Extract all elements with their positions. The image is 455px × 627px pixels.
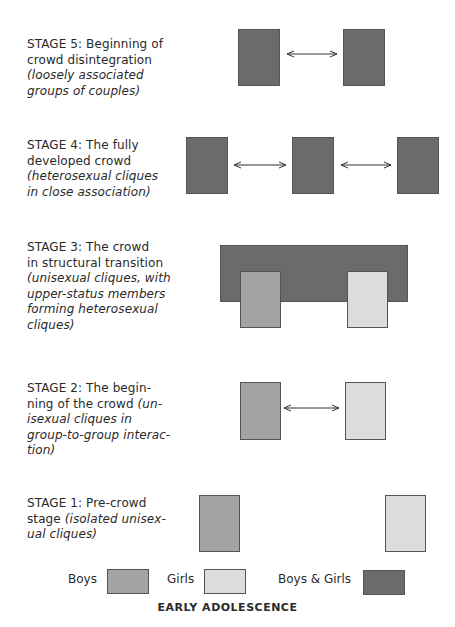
stage-1-desc-line1: ual cliques) <box>27 527 166 543</box>
stage-2-arrow-icon <box>282 403 342 413</box>
stage-1-label: STAGE 1: Pre-crowd stage (isolated unise… <box>27 496 166 543</box>
legend-girls-label: Girls <box>167 572 194 586</box>
stage-2-desc-line1: isexual cliques in <box>27 412 170 428</box>
stage-2-desc-line2: group-to-group interac- <box>27 428 170 444</box>
diagram-caption: EARLY ADOLESCENCE <box>0 601 455 614</box>
stage-4-mixed-clique-3 <box>397 137 439 194</box>
legend-boys-swatch <box>107 569 149 594</box>
stage-3-title-line1: STAGE 3: The crowd <box>27 240 171 256</box>
stage-3-title-line2: in structural transition <box>27 256 171 272</box>
stage-1-desc-start: (isolated unisex- <box>65 512 166 526</box>
stage-4-arrow-2-icon <box>338 160 394 170</box>
stage-2-title-line1: STAGE 2: The begin- <box>27 381 170 397</box>
legend-boys-label: Boys <box>68 572 97 586</box>
stage-3-desc-line4: cliques) <box>27 318 171 334</box>
stage-4-title-line1: STAGE 4: The fully <box>27 138 158 154</box>
stage-4-title-line2: developed crowd <box>27 154 158 170</box>
legend-both-swatch <box>363 570 405 595</box>
stage-2-girls-clique <box>345 382 386 440</box>
stage-1-girls-clique <box>385 495 426 552</box>
legend-girls-swatch <box>204 569 246 594</box>
stage-2-boys-clique <box>240 382 281 440</box>
stage-3-boys-clique <box>240 271 281 328</box>
stage-1-title-line2: stage <box>27 512 65 526</box>
stage-2-desc-line3: tion) <box>27 443 170 459</box>
stage-2-desc-start: (un- <box>138 397 163 411</box>
stage-3-desc-line3: forming heterosexual <box>27 302 171 318</box>
stage-5-desc-line1: (loosely associated <box>27 68 163 84</box>
stage-5-mixed-clique-2 <box>343 29 385 86</box>
stage-1-title-line1: STAGE 1: Pre-crowd <box>27 496 166 512</box>
stage-5-desc-line2: groups of couples) <box>27 84 163 100</box>
stage-4-label: STAGE 4: The fully developed crowd (hete… <box>27 138 158 200</box>
stage-4-mixed-clique-2 <box>292 137 334 194</box>
stage-3-desc-line1: (unisexual cliques, with <box>27 271 171 287</box>
stage-2-title-line2: ning of the crowd <box>27 397 138 411</box>
stage-4-arrow-1-icon <box>231 160 289 170</box>
stage-3-girls-clique <box>347 271 388 328</box>
stage-5-label: STAGE 5: Beginning of crowd disintegrati… <box>27 37 163 99</box>
stage-2-label: STAGE 2: The begin- ning of the crowd (u… <box>27 381 170 459</box>
stage-5-arrow-icon <box>284 49 340 59</box>
stage-1-boys-clique <box>199 495 240 552</box>
stage-5-title-line1: STAGE 5: Beginning of <box>27 37 163 53</box>
stage-5-title-line2: crowd disintegration <box>27 53 163 69</box>
stage-5-mixed-clique-1 <box>238 29 280 86</box>
stage-4-mixed-clique-1 <box>186 137 228 194</box>
stage-4-desc-line2: in close association) <box>27 185 158 201</box>
stage-4-desc-line1: (heterosexual cliques <box>27 169 158 185</box>
stage-3-desc-line2: upper-status members <box>27 287 171 303</box>
stage-3-label: STAGE 3: The crowd in structural transit… <box>27 240 171 333</box>
legend-both-label: Boys & Girls <box>278 572 351 586</box>
